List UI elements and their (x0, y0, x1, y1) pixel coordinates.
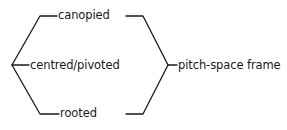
node-label-pitch-space-frame: pitch-space frame (178, 59, 281, 72)
bracket-diagram: canopied centred/pivoted rooted pitch-sp… (0, 0, 287, 130)
node-label-centred-pivoted: centred/pivoted (30, 59, 120, 72)
right-brace-top-arm (126, 16, 168, 65)
right-brace-bottom-arm (126, 65, 168, 114)
node-label-rooted: rooted (60, 107, 97, 120)
node-label-canopied: canopied (58, 9, 110, 22)
left-brace-bottom-arm (12, 65, 59, 114)
